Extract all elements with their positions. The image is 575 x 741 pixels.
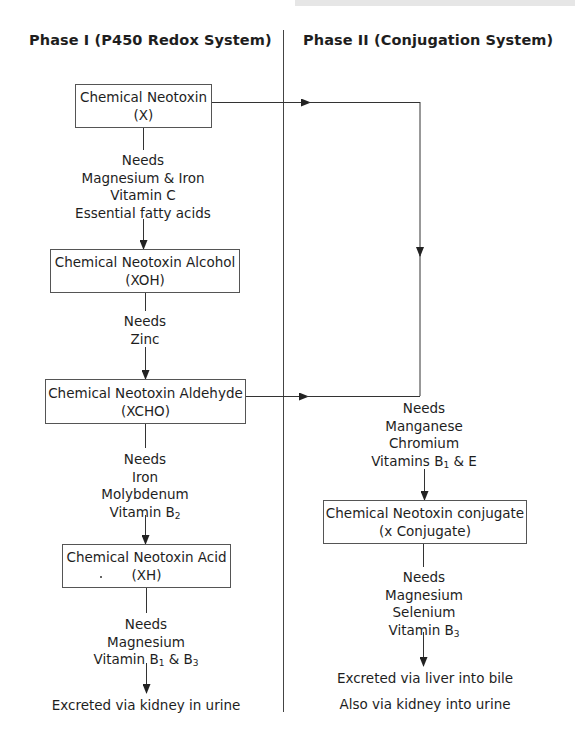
needs-item: Zinc [124,331,166,349]
box-neotoxin-acid: Chemical Neotoxin Acid (XH) [62,544,231,588]
needs-item: Vitamin B1 & B3 [93,651,198,673]
box-neotoxin-conjugate: Chemical Neotoxin conjugate (x Conjugate… [323,500,527,544]
needs-item: Molybdenum [101,486,188,504]
box-neotoxin: Chemical Neotoxin (X) [75,84,212,128]
needs-label: Needs [371,400,477,418]
needs-item: Magnesium [385,587,463,605]
needs-label: Needs [75,152,211,170]
subscript: 2 [175,511,181,521]
needs-label: Needs [93,616,198,634]
vitamin-label: Vitamin B [389,622,454,638]
needs-post-conjugation: Needs Magnesium Selenium Vitamin B3 [385,569,463,643]
vitamin-label: Vitamins B [371,453,443,469]
box-alcohol-name: Chemical Neotoxin Alcohol [55,253,236,271]
needs-step2: Needs Zinc [124,313,166,348]
box-aldehyde-formula: (XCHO) [121,402,170,420]
box-neotoxin-formula: (X) [134,106,154,124]
needs-item: Magnesium [93,634,198,652]
vitamin-label: Vitamin B [93,651,158,667]
vitamin-label: & B [164,651,192,667]
box-aldehyde-name: Chemical Neotoxin Aldehyde [48,384,243,402]
vitamin-label: & E [449,453,477,469]
needs-step4: Needs Magnesium Vitamin B1 & B3 [93,616,198,673]
needs-label: Needs [385,569,463,587]
phase2-output-bile: Excreted via liver into bile [337,670,513,686]
box-conjugate-name: Chemical Neotoxin conjugate [326,504,524,522]
needs-item: Selenium [385,604,463,622]
needs-item: Manganese [371,418,477,436]
box-acid-formula: (XH) [132,566,162,584]
needs-label: Needs [101,451,188,469]
vitamin-label: Vitamin B [109,504,174,520]
box-neotoxin-aldehyde: Chemical Neotoxin Aldehyde (XCHO) [45,379,246,424]
needs-step1: Needs Magnesium & Iron Vitamin C Essenti… [75,152,211,222]
needs-item: Magnesium & Iron [75,170,211,188]
stray-dot [100,576,102,578]
needs-item: Vitamin C [75,187,211,205]
box-alcohol-formula: (XOH) [125,271,165,289]
subscript: 3 [193,658,199,668]
needs-item: Vitamin B2 [101,504,188,526]
needs-conjugation: Needs Manganese Chromium Vitamins B1 & E [371,400,477,474]
needs-label: Needs [124,313,166,331]
box-neotoxin-alcohol: Chemical Neotoxin Alcohol (XOH) [50,249,240,293]
needs-item: Vitamins B1 & E [371,453,477,475]
box-neotoxin-name: Chemical Neotoxin [80,88,207,106]
needs-item: Iron [101,469,188,487]
phase1-output: Excreted via kidney in urine [52,697,241,713]
needs-item: Essential fatty acids [75,205,211,223]
box-acid-name: Chemical Neotoxin Acid [66,548,226,566]
phase2-output-urine: Also via kidney into urine [339,696,510,712]
subscript: 3 [454,629,460,639]
needs-step3: Needs Iron Molybdenum Vitamin B2 [101,451,188,525]
box-conjugate-formula: (x Conjugate) [379,522,471,540]
needs-item: Chromium [371,435,477,453]
needs-item: Vitamin B3 [385,622,463,644]
